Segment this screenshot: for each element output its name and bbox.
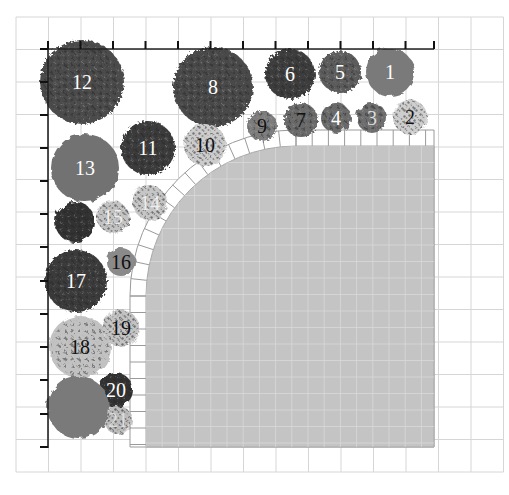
plant-10[interactable]: 10 (184, 124, 226, 166)
plant-18[interactable]: 18 (49, 316, 111, 378)
plant-1[interactable]: 1 (366, 48, 414, 96)
plant-number-label: 17 (66, 270, 86, 292)
plant-7[interactable]: 7 (284, 103, 318, 137)
plant-number-label: 8 (208, 76, 218, 98)
plant-number-label: 20 (106, 379, 126, 401)
plant-symbol (47, 376, 109, 438)
plant-number-label: 11 (138, 137, 157, 159)
plant-3[interactable]: 3 (357, 103, 387, 133)
plant-4[interactable]: 4 (321, 103, 351, 133)
plant-number-label: 15 (103, 206, 123, 228)
plant-unlabeled-22[interactable] (55, 202, 95, 242)
plant-number-label: 5 (335, 61, 345, 83)
plant-9[interactable]: 9 (247, 111, 277, 141)
plant-5[interactable]: 5 (319, 51, 361, 93)
plant-19[interactable]: 19 (103, 310, 139, 346)
plant-number-label: 4 (331, 107, 341, 129)
plant-number-label: 21 (108, 409, 128, 431)
plant-number-label: 9 (257, 115, 267, 137)
garden-plan-canvas: 123456789101112131415161718192021 (0, 0, 509, 495)
plant-number-label: 16 (111, 251, 131, 273)
plant-number-label: 13 (75, 157, 95, 179)
plant-texture (57, 204, 94, 241)
plant-8[interactable]: 8 (173, 47, 253, 127)
plant-number-label: 14 (140, 192, 160, 214)
plant-17[interactable]: 17 (45, 250, 107, 312)
plant-number-label: 1 (385, 61, 395, 83)
plant-13[interactable]: 13 (51, 134, 119, 202)
plant-6[interactable]: 6 (265, 49, 315, 99)
plant-number-label: 10 (195, 134, 215, 156)
plant-12[interactable]: 12 (40, 40, 124, 124)
plant-15[interactable]: 15 (97, 201, 129, 233)
plant-number-label: 18 (70, 336, 90, 358)
plant-unlabeled-23[interactable] (47, 376, 109, 438)
plant-number-label: 19 (111, 317, 131, 339)
plant-16[interactable]: 16 (107, 248, 135, 276)
patio-surface (146, 146, 434, 447)
plant-2[interactable]: 2 (393, 100, 427, 134)
plant-number-label: 12 (72, 71, 92, 93)
patio (130, 130, 434, 447)
plant-14[interactable]: 14 (133, 186, 167, 220)
plant-11[interactable]: 11 (121, 121, 175, 175)
plant-number-label: 7 (296, 109, 306, 131)
plant-number-label: 2 (405, 106, 415, 128)
plant-number-label: 3 (367, 107, 377, 129)
plant-number-label: 6 (285, 63, 295, 85)
